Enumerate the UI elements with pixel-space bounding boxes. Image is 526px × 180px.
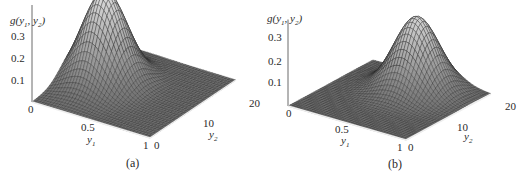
y-tick-0: 0 (154, 140, 160, 151)
surface-plot-b: g(y1, y2) 0.3 0.2 0.1 0 0.5 y1 1 0 10 y2… (263, 0, 526, 180)
z-tick-0.1: 0.1 (11, 75, 25, 86)
panel-caption-a: (a) (126, 157, 139, 169)
z-axis-label: g(y1, y2) (267, 13, 302, 27)
x-tick-1: 1 (397, 142, 403, 153)
z-axis-label: g(y1, y2) (10, 15, 45, 29)
z-tick-0.2: 0.2 (11, 53, 25, 64)
panel-caption-b: (b) (388, 158, 402, 170)
surface-plot-a: g(y1, y2) 0.3 0.2 0.1 0 0.5 y1 1 0 10 y2… (0, 0, 263, 180)
z-tick-0.3: 0.3 (268, 32, 282, 43)
y-tick-20: 20 (249, 98, 260, 109)
x-tick-0: 0 (28, 104, 34, 115)
x-axis-label: y1 (87, 134, 95, 148)
x-axis-label: y1 (341, 135, 349, 149)
x-tick-0.5: 0.5 (81, 122, 95, 133)
z-tick-0.1: 0.1 (268, 77, 282, 88)
surface-mesh-b (263, 0, 526, 180)
y-tick-0: 0 (408, 142, 414, 153)
z-tick-0.3: 0.3 (11, 31, 25, 42)
y-axis-label: y2 (209, 129, 217, 143)
y-axis-label: y2 (464, 131, 472, 145)
y-tick-20: 20 (505, 101, 516, 112)
x-tick-1: 1 (143, 140, 149, 151)
x-tick-0: 0 (286, 108, 292, 119)
z-tick-0.2: 0.2 (268, 56, 282, 67)
